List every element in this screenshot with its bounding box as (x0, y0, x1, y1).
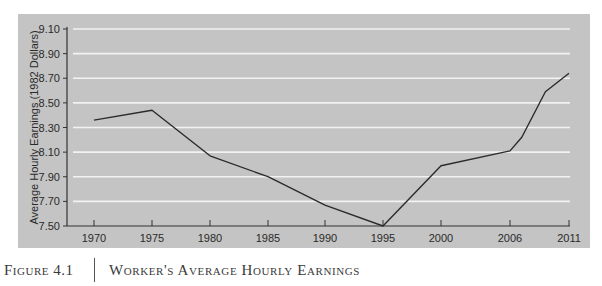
x-tick-label: 1995 (371, 232, 395, 244)
earnings-line (94, 73, 569, 226)
line-chart: 7.507.707.908.108.308.508.708.909.101970… (0, 0, 602, 250)
y-tick-label: 9.10 (39, 23, 60, 35)
caption-divider (94, 258, 95, 282)
x-tick-label: 2006 (498, 232, 522, 244)
y-tick-label: 7.70 (39, 195, 60, 207)
y-tick-label: 8.50 (39, 97, 60, 109)
y-tick-label: 8.10 (39, 146, 60, 158)
x-tick-label: 1970 (82, 232, 106, 244)
x-tick-label: 1985 (256, 232, 280, 244)
figure-caption: Figure 4.1 Worker's Average Hourly Earni… (4, 258, 360, 282)
figure-label: Figure 4.1 (4, 262, 88, 279)
y-tick-label: 7.90 (39, 171, 60, 183)
y-axis-label: Average Hourly Earnings (1982 Dollars) (28, 30, 40, 224)
x-tick-label: 1980 (198, 232, 222, 244)
x-tick-label: 1975 (140, 232, 164, 244)
x-tick-label: 2000 (429, 232, 453, 244)
x-tick-label: 2011 (557, 232, 581, 244)
y-tick-label: 8.30 (39, 122, 60, 134)
y-tick-label: 7.50 (39, 220, 60, 232)
figure-title: Worker's Average Hourly Earnings (109, 262, 360, 279)
x-tick-label: 1990 (313, 232, 337, 244)
y-tick-label: 8.70 (39, 72, 60, 84)
y-tick-label: 8.90 (39, 48, 60, 60)
